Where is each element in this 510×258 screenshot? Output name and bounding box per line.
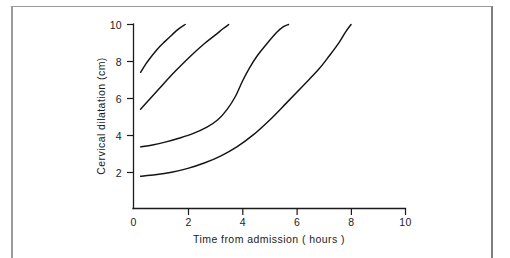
- x-tick-label-8: 8: [348, 216, 354, 228]
- y-tick-label-2: 2: [116, 167, 122, 179]
- y-tick-label-8: 8: [116, 56, 122, 68]
- dilatation-curve-4: [141, 25, 352, 177]
- labor-curve-chart: 10 8 6 4 2 0 2 4 6 8 10 Time from admiss…: [0, 0, 510, 258]
- y-axis-title: Cervical dilatation (cm): [95, 57, 107, 175]
- dilatation-curve-1: [141, 25, 186, 73]
- y-axis-ticks: [127, 25, 134, 173]
- y-tick-label-6: 6: [116, 93, 122, 105]
- dilatation-curve-2: [141, 25, 229, 110]
- axis-lines: [133, 24, 406, 209]
- y-tick-label-4: 4: [116, 130, 122, 142]
- x-tick-label-6: 6: [294, 216, 300, 228]
- x-axis-ticks: [189, 209, 406, 216]
- x-tick-label-4: 4: [240, 216, 246, 228]
- figure-root: 10 8 6 4 2 0 2 4 6 8 10 Time from admiss…: [0, 0, 510, 258]
- curves-group: [141, 25, 352, 177]
- y-tick-label-10: 10: [110, 19, 122, 31]
- x-tick-label-10: 10: [399, 216, 411, 228]
- x-tick-label-2: 2: [185, 216, 191, 228]
- x-axis-title: Time from admission ( hours ): [193, 233, 345, 245]
- x-tick-label-0: 0: [130, 216, 136, 228]
